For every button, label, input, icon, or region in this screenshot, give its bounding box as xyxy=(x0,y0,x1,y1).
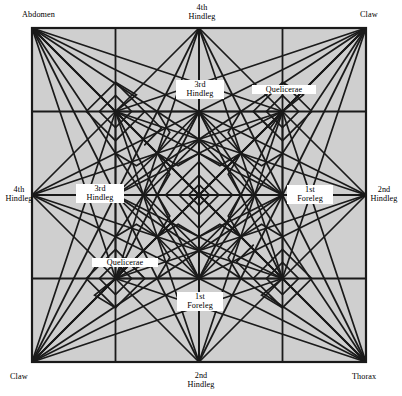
label-inner-upper-right: Quelicerae xyxy=(252,85,316,94)
crease-pattern-canvas xyxy=(0,0,402,396)
label-inner-top: 3rd Hindleg xyxy=(176,80,224,99)
label-inner-left: 3rd Hindleg xyxy=(76,184,124,203)
label-edge-top: 4th Hindleg xyxy=(174,3,230,22)
label-corner-top-right: Claw xyxy=(360,10,400,19)
label-edge-bottom: 2nd Hindleg xyxy=(172,371,230,390)
label-inner-right: 1st Foreleg xyxy=(287,185,333,204)
label-corner-bottom-left: Claw xyxy=(10,372,50,381)
label-inner-lower-left: Quelicerae xyxy=(92,258,158,267)
label-edge-right: 2nd Hindleg xyxy=(366,185,402,204)
label-inner-bottom: 1st Foreleg xyxy=(177,292,223,311)
label-edge-left: 4th Hindleg xyxy=(2,185,36,204)
crease-pattern-figure: Abdomen Claw Claw Thorax 4th Hindleg 4th… xyxy=(0,0,402,396)
label-corner-top-left: Abdomen xyxy=(22,10,82,19)
label-corner-bottom-right: Thorax xyxy=(352,372,400,381)
